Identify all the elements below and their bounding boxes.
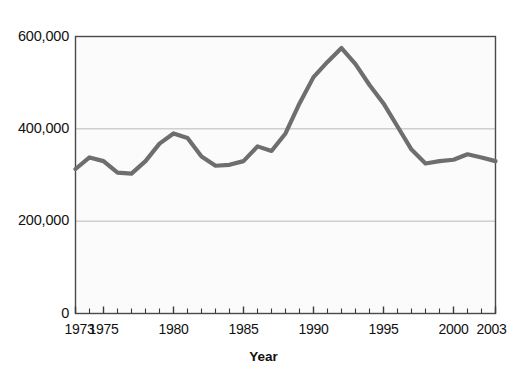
x-tick-label: 1995 [369, 322, 399, 337]
chart-container: 0200,000400,000600,000 19731975198019851… [0, 0, 527, 383]
x-tick-label: 1985 [229, 322, 259, 337]
x-tick-label: 2003 [477, 322, 507, 337]
x-tick-label: 2000 [439, 322, 469, 337]
x-tick-label: 1990 [299, 322, 329, 337]
x-tick-label: 1975 [89, 322, 119, 337]
x-axis-title: Year [0, 349, 527, 364]
x-axis-tick-labels: 19731975198019851990199520002003 [0, 0, 527, 383]
x-tick-label: 1980 [159, 322, 189, 337]
